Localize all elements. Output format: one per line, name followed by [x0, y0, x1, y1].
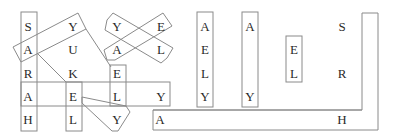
grid-letter: L: [197, 65, 213, 83]
grid-letter: H: [334, 111, 350, 129]
grid-letter: A: [20, 41, 36, 59]
word-search-puzzle: SARAHYUKELYAELYELYAAELYAYELSRH: [0, 0, 398, 136]
grid-letter: E: [109, 65, 125, 83]
grid-letter: R: [334, 65, 350, 83]
grid-letter: L: [286, 65, 302, 83]
grid-letter: Y: [153, 88, 169, 106]
grid-letter: Y: [65, 18, 81, 36]
grid-letter: A: [242, 18, 258, 36]
grid-letter: E: [65, 88, 81, 106]
grid-letter: U: [65, 41, 81, 59]
grid-letter: L: [65, 111, 81, 129]
grid-letter: Y: [109, 111, 125, 129]
grid-letter: L: [109, 88, 125, 106]
grid-letter: H: [20, 111, 36, 129]
grid-letter: S: [20, 18, 36, 36]
grid-letter: K: [65, 65, 81, 83]
grid-letter: Y: [109, 18, 125, 36]
grid-letter: E: [286, 41, 302, 59]
outline-ake-diagonal: [37, 53, 66, 82]
grid-letter: A: [197, 18, 213, 36]
grid-letter: A: [152, 111, 168, 129]
grid-letter: Y: [242, 88, 258, 106]
grid-letter: S: [334, 18, 350, 36]
grid-letter: E: [153, 18, 169, 36]
grid-letter: E: [197, 41, 213, 59]
outline-row-aely: [21, 82, 170, 106]
grid-letter: Y: [197, 88, 213, 106]
grid-letter: A: [109, 41, 125, 59]
grid-letter: L: [153, 41, 169, 59]
grid-letter: R: [20, 65, 36, 83]
grid-letter: A: [20, 88, 36, 106]
